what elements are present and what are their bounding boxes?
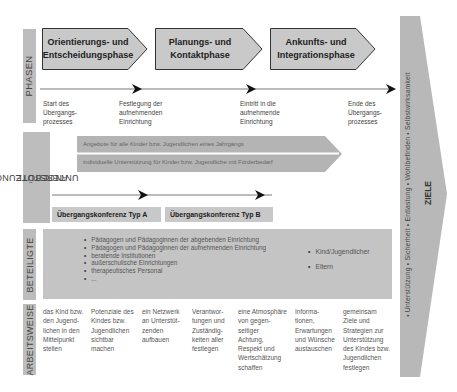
list-item: Eltern — [308, 263, 369, 271]
list-item: Pädagogen und Pädagoginnen der aufnehmen… — [84, 244, 266, 252]
phase-orientation: Orientierungs- undEntscheidungsphase — [42, 28, 148, 70]
support-section-label: UNTERSTÜTZUNGS- ANGEBOTE — [23, 132, 50, 223]
phase-planning: Planungs- undKontaktphase — [155, 28, 263, 70]
participants-section-label: BETEILIGTE — [23, 229, 36, 300]
conference-type-b: Übergangskonferenz Typ B — [165, 207, 273, 222]
workmode-item: eine Atmosphärevon gegen-seitigerAchtung… — [238, 307, 294, 372]
phases-section-label: PHASEN — [23, 29, 36, 123]
list-item: beratende Institutionen — [84, 252, 266, 260]
milestone-start: Start desÜbergangs-prozesses — [43, 99, 77, 126]
milestone-entry: Eintritt in dieaufnehmendeEinrichtung — [240, 99, 280, 126]
list-item: außerschulische Einrichtungen — [84, 259, 266, 267]
support-bar-individual: individuelle Unterstützung für Kinder bz… — [83, 159, 273, 165]
list-item: therapeutisches Personal — [84, 267, 266, 275]
timeline-arrow — [38, 82, 400, 96]
phase-title: Planungs- undKontaktphase — [155, 28, 245, 70]
participants-list-family: Kind/Jugendlicher Eltern — [308, 248, 369, 271]
workmode-item: Informa-tionen,Erwartungenund Wünscheaus… — [295, 307, 345, 353]
workmode-item: ein Netzwerkan Unterstüt-zendenaufbauen — [142, 307, 192, 344]
list-item: Kind/Jugendlicher — [308, 248, 369, 256]
conference-type-a: Übergangskonferenz Typ A — [52, 207, 161, 222]
workmode-section-label: ARBEITSWEISE — [23, 304, 36, 375]
workmode-item: Verantwor-tungen undZuständig-keiten all… — [192, 307, 242, 353]
phase-title: Ankunfts- undIntegrationsphase — [270, 28, 362, 70]
phase-arrival: Ankunfts- undIntegrationsphase — [270, 28, 376, 70]
workmode-item: gemeinsamZiele undStrategien zurUnterstü… — [343, 307, 399, 372]
goals-title: ZIELE — [423, 173, 433, 213]
conference-timeline-arrow — [50, 188, 275, 202]
list-item: ... — [84, 275, 266, 283]
participants-list-professionals: Pädagogen und Pädagoginnen der abgebende… — [84, 236, 266, 283]
workmode-item: Potenziale desKindes bzw.Jugendlichensic… — [91, 307, 141, 353]
support-bar-all-children: Angebote für alle Kinder bzw. Jugendlich… — [83, 141, 244, 147]
milestone-end: Ende desÜbergangs-prozesses — [348, 99, 382, 126]
phase-title: Orientierungs- undEntscheidungsphase — [42, 28, 134, 70]
milestone-determination: Festlegung deraufnehmendenEinrichtung — [119, 99, 162, 126]
goals-list: • Unterstützung • Sicherheit • Entlastun… — [404, 45, 411, 345]
workmode-item: das Kind bzw.den Jugend-lichen in denMit… — [43, 307, 93, 353]
list-item: Pädagogen und Pädagoginnen der abgebende… — [84, 236, 266, 244]
